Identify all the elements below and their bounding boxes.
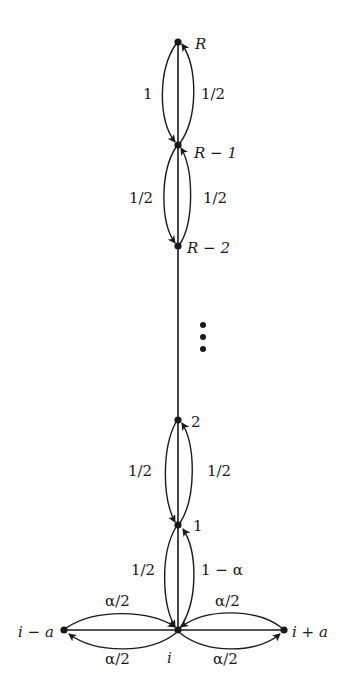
edge-label-R-Rm1-right: 1/2 [201, 85, 225, 103]
markov-chain-diagram: R R − 1 R − 2 2 1 i i − a i + a 1 1/2 1/… [0, 0, 346, 699]
edge-label-Rm1-Rm2-left: 1/2 [129, 189, 153, 207]
edge-label-1-i-right: 1 − α [201, 561, 243, 579]
edge-Rm2-to-Rm1 [180, 148, 191, 244]
edge-label-left-bottom: α/2 [105, 650, 130, 668]
node-2 [174, 416, 181, 423]
edge-Rm1-to-Rm2 [164, 147, 176, 243]
edge-1-to-i [165, 527, 176, 627]
label-Rm1: R − 1 [193, 144, 237, 162]
edge-i-to-im_a [69, 633, 176, 649]
ellipsis-dot [200, 346, 206, 352]
edge-ip_a-to-i [181, 613, 282, 628]
label-2: 2 [191, 413, 201, 431]
label-Rm2: R − 2 [186, 239, 230, 257]
edge-2-to-1 [165, 422, 176, 522]
node-im_a [60, 626, 67, 633]
edge-im_a-to-i [66, 614, 175, 628]
edge-1-to-2 [180, 423, 192, 523]
label-R: R [194, 35, 206, 53]
node-Rm1 [174, 141, 181, 148]
label-i: i [167, 649, 172, 667]
edge-label-R-Rm1-left: 1 [143, 85, 153, 103]
edge-label-left-top: α/2 [105, 592, 130, 610]
node-R [174, 38, 181, 45]
node-Rm2 [174, 242, 181, 249]
edge-label-right-top: α/2 [215, 592, 240, 610]
label-ip_a: i + a [292, 623, 328, 641]
label-1: 1 [193, 517, 203, 535]
label-im_a: i − a [18, 623, 54, 641]
edge-i-to-1 [180, 529, 194, 628]
edge-label-1-i-left: 1/2 [131, 561, 155, 579]
edge-label-right-bottom: α/2 [213, 650, 238, 668]
edge-label-Rm1-Rm2-right: 1/2 [203, 189, 227, 207]
edge-label-2-1-right: 1/2 [207, 462, 231, 480]
node-ip_a [280, 626, 287, 633]
node-1 [174, 521, 181, 528]
edge-i-to-ip_a [180, 633, 280, 649]
edge-R-to-Rm1 [162, 44, 176, 142]
ellipsis-dot [200, 334, 206, 340]
edge-Rm1-to-R [180, 44, 194, 143]
node-i [174, 626, 181, 633]
ellipsis-dot [200, 322, 206, 328]
edge-label-2-1-left: 1/2 [128, 462, 152, 480]
